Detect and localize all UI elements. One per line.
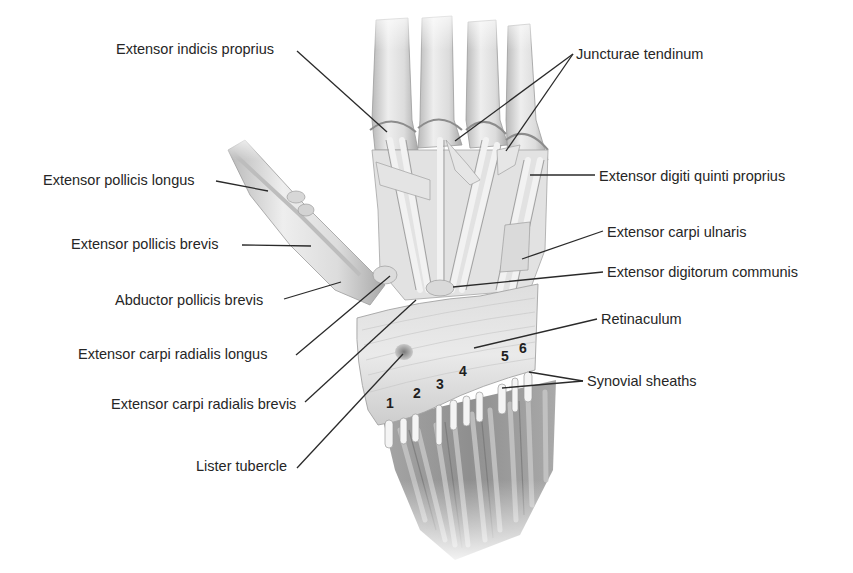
anatomy-figure: Extensor indicis proprius Juncturae tend…	[0, 0, 853, 573]
hand-illustration	[0, 0, 853, 573]
leader-line-synovial-sheaths	[529, 372, 583, 381]
label-synovial-sheaths: Synovial sheaths	[587, 373, 697, 389]
label-extensor-indicis-proprius: Extensor indicis proprius	[116, 41, 274, 57]
compartment-1: 1	[386, 396, 394, 410]
label-retinaculum: Retinaculum	[601, 311, 682, 327]
label-lister-tubercle: Lister tubercle	[196, 458, 287, 474]
label-extensor-carpi-ulnaris: Extensor carpi ulnaris	[607, 224, 746, 240]
label-extensor-carpi-radialis-longus: Extensor carpi radialis longus	[78, 346, 267, 362]
compartment-5: 5	[501, 349, 509, 363]
compartment-6: 6	[519, 341, 527, 355]
label-extensor-digitorum-communis: Extensor digitorum communis	[607, 264, 798, 280]
compartment-4: 4	[459, 364, 467, 378]
label-extensor-pollicis-brevis: Extensor pollicis brevis	[71, 236, 218, 252]
label-extensor-digiti-quinti-proprius: Extensor digiti quinti proprius	[599, 168, 785, 184]
label-juncturae-tendinum: Juncturae tendinum	[576, 46, 703, 62]
label-extensor-pollicis-longus: Extensor pollicis longus	[43, 172, 195, 188]
fingers	[360, 0, 560, 160]
hand-dorsum	[372, 140, 548, 300]
leader-line-abductor-pollicis-brevis	[284, 282, 341, 299]
thumb	[215, 130, 385, 305]
label-extensor-carpi-radialis-brevis: Extensor carpi radialis brevis	[111, 396, 296, 412]
compartment-2: 2	[413, 386, 421, 400]
compartment-3: 3	[436, 377, 444, 391]
label-abductor-pollicis-brevis: Abductor pollicis brevis	[115, 292, 263, 308]
